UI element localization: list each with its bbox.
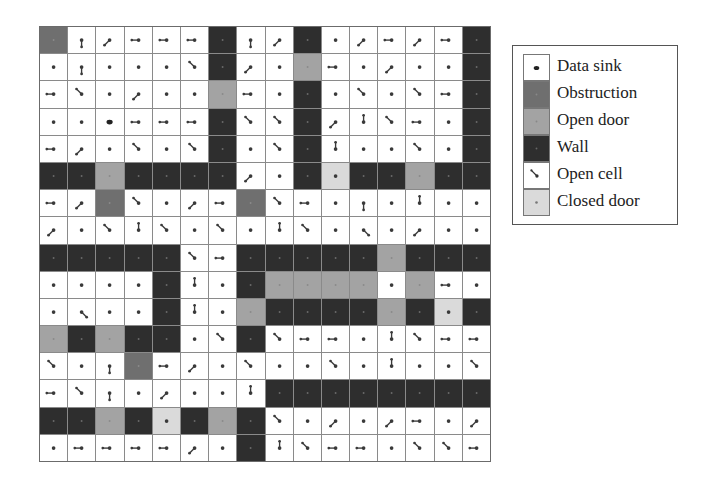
open-cell: [266, 353, 293, 379]
cell-marker-icon: [237, 380, 264, 406]
cell-marker-icon: [435, 109, 462, 135]
cell-marker-icon: [125, 190, 152, 216]
open-cell: [153, 109, 180, 135]
cell-marker-icon: [68, 353, 95, 379]
open-cell: [322, 109, 349, 135]
obstruction-cell: [237, 190, 264, 216]
open-cell: [378, 54, 405, 80]
open-cell: [68, 81, 95, 107]
cell-marker-icon: [40, 353, 67, 379]
open-cell: [294, 190, 321, 216]
open-cell: [125, 54, 152, 80]
cell-marker-icon: [294, 109, 321, 135]
cell-marker-icon: [406, 163, 433, 189]
open-cell: [322, 408, 349, 434]
open-cell: [435, 136, 462, 162]
open-cell: [68, 109, 95, 135]
cell-marker-icon: [237, 299, 264, 325]
cell-marker-icon: [181, 435, 208, 461]
open-cell: [125, 272, 152, 298]
cell-marker-icon: [406, 54, 433, 80]
open-cell: [237, 136, 264, 162]
cell-marker-icon: [68, 81, 95, 107]
cell-marker-icon: [266, 81, 293, 107]
cell-marker-icon: [181, 245, 208, 271]
open-cell: [68, 190, 95, 216]
cell-marker-icon: [294, 326, 321, 352]
cell-marker-icon: [322, 27, 349, 53]
cell-marker-icon: [322, 190, 349, 216]
wall-cell: [181, 408, 208, 434]
open-cell: [181, 299, 208, 325]
open-cell: [435, 109, 462, 135]
cell-marker-icon: [322, 380, 349, 406]
open-cell: [181, 190, 208, 216]
open-cell: [435, 190, 462, 216]
open-cell: [350, 217, 377, 243]
open-cell: [435, 408, 462, 434]
cell-marker-icon: [209, 136, 236, 162]
open-cell: [378, 353, 405, 379]
open-cell: [322, 190, 349, 216]
open-cell: [209, 272, 236, 298]
closed-door-cell: [435, 299, 462, 325]
open-cell: [463, 190, 490, 216]
open-cell: [40, 435, 67, 461]
cell-marker-icon: [463, 109, 490, 135]
cell-marker-icon: [435, 54, 462, 80]
cell-marker-icon: [181, 353, 208, 379]
cell-marker-icon: [435, 136, 462, 162]
cell-marker-icon: [96, 54, 123, 80]
open-cell: [322, 136, 349, 162]
open-cell: [463, 353, 490, 379]
wall-cell: [68, 163, 95, 189]
wall-cell: [181, 163, 208, 189]
open-cell: [40, 272, 67, 298]
wall-cell: [350, 380, 377, 406]
cell-marker-icon: [237, 353, 264, 379]
open-cell: [68, 299, 95, 325]
wall-cell: [237, 326, 264, 352]
open-cell: [125, 109, 152, 135]
wall-cell: [153, 272, 180, 298]
wall-cell: [209, 54, 236, 80]
cell-marker-icon: [406, 217, 433, 243]
cell-marker-icon: [435, 27, 462, 53]
cell-marker-icon: [294, 380, 321, 406]
cell-marker-icon: [294, 245, 321, 271]
cell-marker-icon: [209, 27, 236, 53]
cell-marker-icon: [406, 136, 433, 162]
open-cell: [68, 136, 95, 162]
cell-marker-icon: [378, 380, 405, 406]
cell-marker-icon: [463, 217, 490, 243]
cell-marker-icon: [153, 380, 180, 406]
cell-marker-icon: [266, 27, 293, 53]
cell-marker-icon: [266, 163, 293, 189]
wall-cell: [406, 299, 433, 325]
cell-marker-icon: [96, 81, 123, 107]
cell-marker-icon: [294, 136, 321, 162]
open-door-cell: [350, 272, 377, 298]
cell-marker-icon: [350, 27, 377, 53]
cell-marker-icon: [68, 136, 95, 162]
legend-item-obstruction: Obstruction: [523, 81, 673, 108]
open-cell: [96, 380, 123, 406]
cell-marker-icon: [68, 408, 95, 434]
cell-marker-icon: [350, 217, 377, 243]
cell-marker-icon: [463, 435, 490, 461]
open-cell: [40, 217, 67, 243]
cell-marker-icon: [350, 163, 377, 189]
open-cell: [350, 326, 377, 352]
cell-marker-icon: [266, 217, 293, 243]
cell-marker-icon: [435, 163, 462, 189]
cell-marker-icon: [209, 380, 236, 406]
open-cell: [406, 408, 433, 434]
open-cell: [125, 136, 152, 162]
open-cell: [181, 435, 208, 461]
cell-marker-icon: [350, 81, 377, 107]
open-cell: [463, 435, 490, 461]
wall-cell: [209, 136, 236, 162]
cell-marker-icon: [266, 245, 293, 271]
open-cell: [266, 54, 293, 80]
cell-marker-icon: [125, 380, 152, 406]
